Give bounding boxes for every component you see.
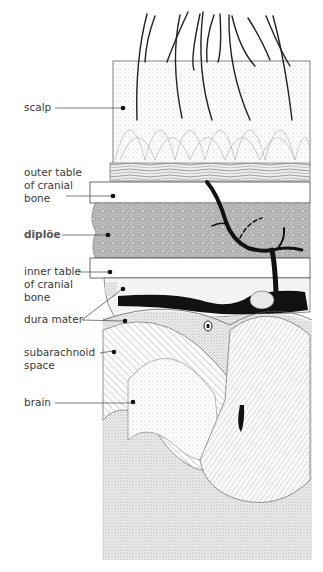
- label-line: bone: [24, 291, 81, 304]
- label-outer-table: outer table of cranial bone: [24, 166, 82, 205]
- label-line: inner table: [24, 265, 81, 278]
- label-line: outer table: [24, 166, 82, 179]
- scalp-layer: [113, 61, 310, 166]
- label-line: brain: [24, 396, 51, 409]
- label-line: subarachnoid: [24, 346, 95, 359]
- arachnoid-granulation: [250, 291, 274, 309]
- label-line: dura mater: [24, 313, 83, 326]
- label-line: of cranial: [24, 278, 81, 291]
- galea-layer: [110, 163, 310, 181]
- brain-tissue: [103, 309, 312, 560]
- label-subarachnoid-space: subarachnoid space: [24, 346, 95, 372]
- label-line: space: [24, 359, 95, 372]
- label-scalp: scalp: [24, 101, 51, 114]
- label-line: of cranial: [24, 179, 82, 192]
- label-dura-mater: dura mater: [24, 313, 83, 326]
- label-line: diplöe: [24, 228, 61, 241]
- label-line: scalp: [24, 101, 51, 114]
- outer-table-layer: [90, 182, 310, 203]
- label-diploe: diplöe: [24, 228, 61, 241]
- label-line: bone: [24, 192, 82, 205]
- label-inner-table: inner table of cranial bone: [24, 265, 81, 304]
- label-brain: brain: [24, 396, 51, 409]
